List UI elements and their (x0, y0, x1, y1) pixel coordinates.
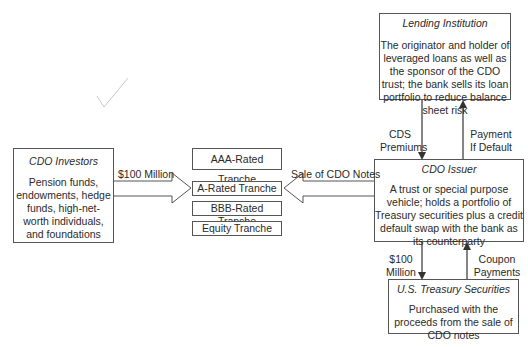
label-100-million-treasury: $100 Million (382, 253, 420, 279)
label-coupon-payments: Coupon Payments (470, 253, 524, 279)
cdo-investors-description: Pension funds, endowments, hedge funds, … (14, 176, 113, 241)
lending-institution-title: Lending Institution (380, 17, 510, 30)
treasury-title: U.S. Treasury Securities (389, 283, 518, 296)
cdo-issuer-title: CDO Issuer (375, 163, 523, 176)
treasury-box: U.S. Treasury Securities Purchased with … (388, 279, 519, 334)
tranche-equity: Equity Tranche (192, 221, 282, 236)
tranche-aaa: AAA-Rated Tranche (192, 148, 282, 170)
tranche-a: A-Rated Tranche (192, 181, 282, 196)
label-sale-of-cdo-notes: Sale of CDO Notes (291, 168, 380, 181)
cdo-investors-box: CDO Investors Pension funds, endowments,… (13, 148, 114, 243)
label-100-million-investors: $100 Million (118, 168, 174, 181)
label-payment-if-default: Payment If Default (466, 128, 516, 154)
tranche-bbb: BBB-Rated Tranche (192, 201, 282, 216)
treasury-description: Purchased with the proceeds from the sal… (389, 303, 518, 342)
label-cds-premiums: CDS Premiums (380, 128, 420, 154)
cdo-issuer-box: CDO Issuer A trust or special purpose ve… (374, 159, 524, 242)
cdo-investors-title: CDO Investors (14, 155, 113, 168)
lending-institution-description: The originator and holder of leveraged l… (380, 39, 510, 117)
lending-institution-box: Lending Institution The originator and h… (379, 13, 511, 100)
cdo-issuer-description: A trust or special purpose vehicle; hold… (375, 183, 523, 248)
checkmark-mark (97, 78, 128, 107)
